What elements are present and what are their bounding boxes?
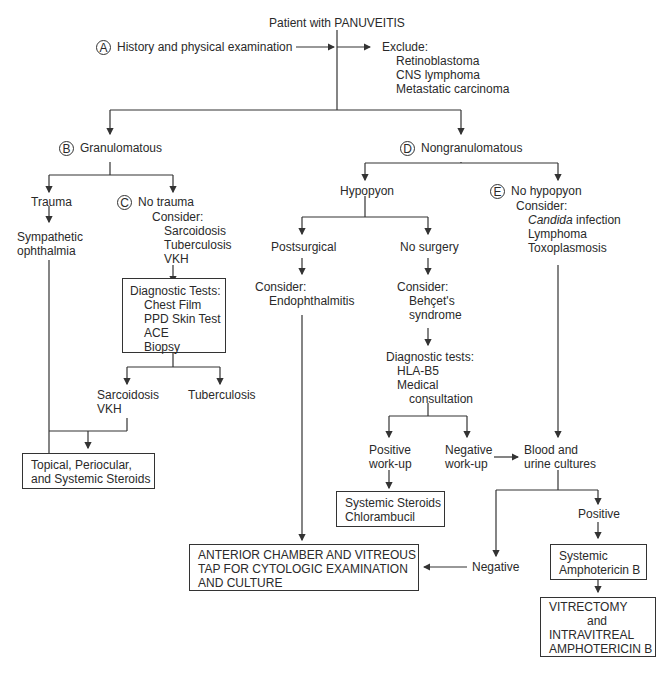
anterior-chamber-box: ANTERIOR CHAMBER AND VITREOUS TAP FOR CY… [189,544,419,591]
no-surgery-node: No surgery [400,240,459,254]
step-b-node: BGranulomatous [59,141,162,156]
text-line: AMPHOTERICIN B [549,642,655,656]
text-line: urine cultures [524,457,596,471]
diag-heading: Diagnostic tests: [386,350,474,364]
tuberculosis-node: Tuberculosis [188,388,256,402]
consider-item: Toxoplasmosis [490,241,621,255]
exclude-node: Exclude: Retinoblastoma CNS lymphoma Met… [382,40,509,96]
text-line: Blood and [524,443,596,457]
consider-item: Behçet's [397,294,462,308]
text-line: VKH [97,402,159,416]
step-e-label: No hypopyon [511,184,582,198]
behcet-node: Consider: Behçet's syndrome [397,280,462,322]
marker-a: A [96,40,111,55]
text-line: and Systemic Steroids [31,472,154,486]
marker-d: D [400,141,415,156]
consider-label: Consider: [397,280,462,294]
consider-item: Lymphoma [490,227,621,241]
exclude-item: Metastatic carcinoma [382,82,509,96]
text-line: AND CULTURE [198,576,418,590]
step-b-label: Granulomatous [80,141,162,155]
text-line: ophthalmia [17,244,83,258]
diagnostic-tests-2-node: Diagnostic tests: HLA-B5 Medical consult… [386,350,474,406]
trauma-node: Trauma [31,195,72,209]
step-e-node: ENo hypopyon Consider: Candida infection… [490,184,621,255]
diag-item: PPD Skin Test [130,312,225,326]
text-line: Systemic Steroids [345,496,444,510]
diag-item: consultation [386,392,474,406]
blood-urine-node: Blood and urine cultures [524,443,596,471]
text-line: TAP FOR CYTOLOGIC EXAMINATION [198,562,418,576]
text-line: Sympathetic [17,230,83,244]
text-line: Chlorambucil [345,510,444,524]
text-line: Sarcoidosis [97,388,159,402]
text-line: Topical, Periocular, [31,458,154,472]
diag-item: Chest Film [130,298,225,312]
systemic-chlorambucil-box: Systemic Steroids Chlorambucil [336,491,445,527]
marker-c: C [117,195,132,210]
diag-item: HLA-B5 [386,364,474,378]
sarcoidosis-vkh-node: Sarcoidosis VKH [97,388,159,416]
amphotericin-box: Systemic Amphotericin B [550,544,647,580]
step-c-label: No trauma [138,195,194,209]
consider-item: Tuberculosis [117,238,232,252]
consider-label: Consider: [255,280,354,294]
text-line: Positive [369,443,412,457]
title-node: Patient with PANUVEITIS [269,16,405,30]
steroids-box: Topical, Periocular, and Systemic Steroi… [22,453,155,489]
consider-item: syndrome [397,308,462,322]
consider-label: Consider: [117,210,232,224]
vitrectomy-box: VITRECTOMY and INTRAVITREAL AMPHOTERICIN… [540,597,656,657]
diagnostic-tests-box: Diagnostic Tests: Chest Film PPD Skin Te… [122,278,226,353]
step-c-node: CNo trauma Consider: Sarcoidosis Tubercu… [117,195,232,266]
postsurgical-node: Postsurgical [271,240,336,254]
consider-item: infection [573,213,621,227]
exclude-item: Retinoblastoma [382,54,509,68]
consider-item: VKH [117,252,232,266]
positive-workup-node: Positive work-up [369,443,412,471]
text-line: Amphotericin B [559,563,646,577]
consider-item: Endophthalmitis [255,294,354,308]
negative-workup-node: Negative work-up [445,443,492,471]
text-line: work-up [369,457,412,471]
text-line: Systemic [559,549,646,563]
positive-node: Positive [578,507,620,521]
text-line: VITRECTOMY [549,600,655,614]
sympathetic-ophthalmia-node: Sympathetic ophthalmia [17,230,83,258]
hypopyon-node: Hypopyon [340,184,394,198]
candida-italic: Candida [528,213,573,227]
consider-item: Sarcoidosis [117,224,232,238]
text-line: Negative [445,443,492,457]
exclude-heading: Exclude: [382,40,509,54]
step-d-label: Nongranulomatous [421,141,522,155]
exclude-item: CNS lymphoma [382,68,509,82]
text-line: work-up [445,457,492,471]
diag-item: ACE [130,326,225,340]
text-line: ANTERIOR CHAMBER AND VITREOUS [198,548,418,562]
step-a-node: AHistory and physical examination [96,40,292,55]
text-line: INTRAVITREAL [549,628,655,642]
negative-node: Negative [472,560,519,574]
consider-label: Consider: [490,199,621,213]
text-line: and [549,614,655,628]
diag-item: Biopsy [130,340,225,354]
endophthalmitis-node: Consider: Endophthalmitis [255,280,354,308]
marker-e: E [490,184,505,199]
diag-heading: Diagnostic Tests: [130,284,225,298]
step-a-label: History and physical examination [117,40,292,54]
step-d-node: DNongranulomatous [400,141,522,156]
diag-item: Medical [386,378,474,392]
marker-b: B [59,141,74,156]
